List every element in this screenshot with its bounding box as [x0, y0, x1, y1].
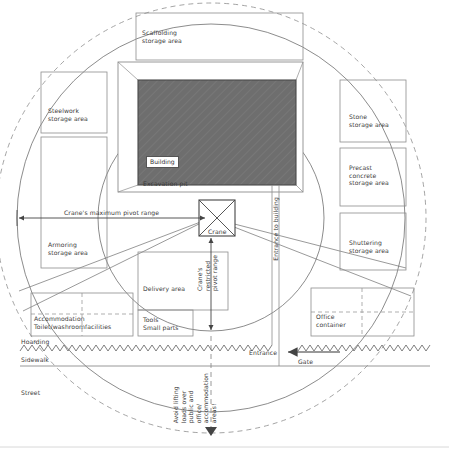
label-precast-concrete-storage-area: Precast concrete storage area	[349, 164, 389, 187]
label-stone-storage-area: Stone storage area	[349, 113, 389, 128]
label-armoring-storage-area: Armoring storage area	[48, 241, 88, 256]
label-crane: Crane	[208, 228, 227, 236]
label-shuttering-storage-area: Shuttering storage area	[349, 239, 389, 254]
label-office-container: Office container	[316, 313, 346, 328]
hoarding-zigzag-left	[20, 345, 272, 351]
label-building: Building	[146, 156, 179, 168]
construction-site-layout-diagram: Scaffolding storage area Steelwork stora…	[0, 0, 449, 449]
label-accommodation: Accommodation Toilet/washroomfacilities	[34, 315, 111, 330]
label-steelwork-storage-area: Steelwork storage area	[48, 107, 88, 122]
label-gate: Gate	[298, 358, 313, 366]
label-sidewalk: Sidewalk	[21, 356, 49, 364]
label-entrance-to-building: Entrance to building	[272, 197, 280, 261]
label-excavation-pit: Excavation pit	[143, 180, 188, 188]
office-container-block	[311, 288, 414, 336]
label-tools-small-parts: Tools Small parts	[143, 316, 179, 331]
label-hoarding: Hoarding	[21, 338, 50, 346]
diagram-canvas	[0, 0, 449, 449]
label-delivery-area: Delivery area	[143, 285, 185, 293]
label-street: Street	[21, 389, 40, 397]
label-crane-restricted-pivot-range: Crane's restricted pivot range	[196, 255, 219, 291]
label-avoid-lifting-loads: Avoid lifting loads over public and offi…	[172, 373, 218, 423]
hoarding-zigzag-right	[298, 345, 430, 351]
label-crane-maximum-pivot-range: Crane's maximum pivot range	[64, 209, 159, 217]
building-block	[138, 80, 296, 185]
label-scaffolding-storage-area: Scaffolding storage area	[142, 29, 182, 44]
label-entrance: Entrance	[249, 349, 277, 357]
